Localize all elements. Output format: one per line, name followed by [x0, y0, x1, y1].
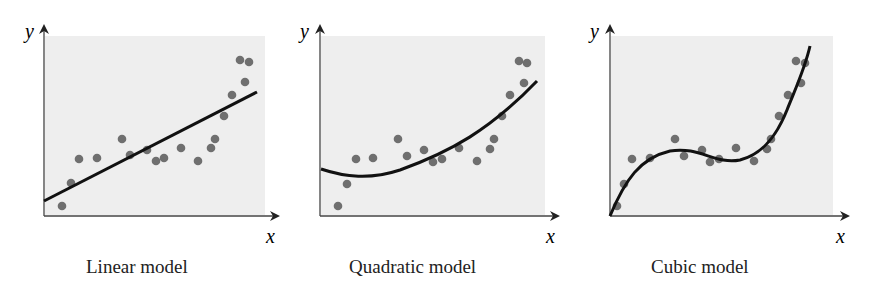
- data-point: [523, 59, 532, 68]
- data-point: [93, 154, 102, 163]
- data-point: [515, 57, 524, 66]
- data-point: [473, 157, 482, 166]
- data-point: [486, 145, 495, 154]
- data-point: [207, 144, 216, 153]
- quadratic-model-chart: y x: [298, 20, 558, 247]
- data-point: [750, 157, 759, 166]
- y-axis-label: y: [23, 20, 34, 43]
- data-point: [628, 155, 637, 164]
- data-point: [245, 58, 254, 67]
- data-point: [369, 154, 378, 163]
- data-point: [343, 180, 352, 189]
- data-point: [671, 135, 680, 144]
- data-point: [152, 157, 161, 166]
- data-point: [118, 135, 127, 144]
- y-axis-label: y: [298, 20, 309, 43]
- data-point: [194, 157, 203, 166]
- data-point: [352, 155, 361, 164]
- data-point: [334, 202, 343, 211]
- data-point: [732, 144, 741, 153]
- data-point: [241, 78, 250, 87]
- x-axis-label: x: [835, 225, 845, 247]
- data-point: [236, 56, 245, 65]
- y-axis-label: y: [588, 20, 599, 43]
- data-point: [490, 135, 499, 144]
- data-point: [394, 135, 403, 144]
- data-point: [160, 154, 169, 163]
- cubic-model-chart: y x: [588, 20, 848, 247]
- x-axis-label: x: [265, 225, 275, 247]
- data-point: [420, 146, 429, 155]
- linear-model-chart: y x: [23, 20, 278, 247]
- plot-panel: [45, 36, 265, 215]
- data-point: [228, 91, 237, 100]
- plot-panel: [321, 36, 545, 215]
- data-point: [75, 155, 84, 164]
- data-point: [58, 202, 67, 211]
- data-point: [177, 144, 186, 153]
- caption-quadratic-model: Quadratic model: [349, 256, 476, 278]
- data-point: [506, 91, 515, 100]
- data-point: [438, 155, 447, 164]
- caption-linear-model: Linear model: [86, 256, 188, 278]
- data-point: [792, 57, 801, 66]
- caption-cubic-model: Cubic model: [651, 256, 749, 278]
- model-comparison-figure: y x y x y x: [0, 0, 870, 298]
- data-point: [680, 152, 689, 161]
- x-axis-label: x: [545, 225, 555, 247]
- data-point: [403, 152, 412, 161]
- data-point: [211, 135, 220, 144]
- data-point: [520, 79, 529, 88]
- data-point: [220, 112, 229, 121]
